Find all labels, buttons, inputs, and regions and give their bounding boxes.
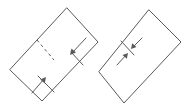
- paper-outline: [10, 8, 98, 101]
- fold-step-1: [10, 8, 98, 101]
- converge-arrow-lower-icon: [117, 53, 128, 65]
- folding-diagram: [0, 0, 196, 112]
- fold-guide-upper: [71, 52, 83, 65]
- fold-arrow-upper-icon: [70, 38, 86, 55]
- paper-outline: [99, 10, 181, 103]
- valley-fold-line: [37, 40, 54, 60]
- fold-arrow-lower-icon: [32, 77, 46, 93]
- converge-arrow-upper-icon: [131, 38, 142, 49]
- fold-step-2: [99, 10, 181, 103]
- fold-guide-lower: [38, 76, 54, 92]
